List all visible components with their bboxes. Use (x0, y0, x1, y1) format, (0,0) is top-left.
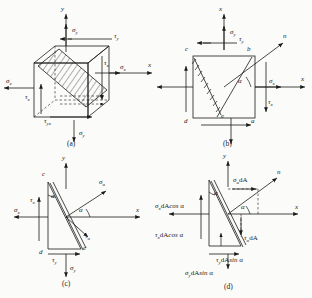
panel-a-axis-y-label: y (61, 6, 64, 13)
panel-b-corner-e: e (221, 113, 224, 120)
panel-d-drawing (155, 149, 312, 298)
panel-a-label-tau-x-right: τx (104, 60, 109, 68)
panel-b-corner-a: a (251, 118, 255, 125)
panel-d-force-tau-y-dA-sin-alpha: τydAsin α (216, 257, 243, 265)
panel-c-axis-y-label: y (62, 155, 65, 162)
panel-c-corner-c: c (42, 171, 45, 178)
panel-a-3d-stress-cube: y x σy τy σx σx τx τx τyx σy (a) (0, 0, 156, 149)
panel-b-axis-y-label: x (219, 6, 222, 13)
panel-c-axis-x-label: x (136, 207, 139, 214)
panel-d-caption: (d) (224, 282, 233, 291)
panel-b-corner-b: b (247, 46, 251, 53)
panel-b-2d-element: x x n σy τy σx τx c b d a e α (b) (155, 0, 312, 149)
panel-c-label-tau-x-left: τx (30, 197, 35, 205)
panel-a-drawing (0, 0, 156, 149)
panel-b-corner-d: d (184, 118, 188, 125)
panel-d-force-sigma-y-dA-sin-alpha: σydAsin α (185, 270, 213, 278)
panel-a-axis-x-label: x (148, 62, 151, 69)
panel-a-caption: (a) (67, 139, 75, 148)
panel-b-axis-x-label: x (301, 76, 304, 83)
panel-b-label-sigma-x-right: σx (269, 78, 275, 86)
panel-c-angle-alpha-right: α (79, 207, 83, 214)
panel-d-force-sigma-x-dA-cos-alpha: σxdAcos α (155, 203, 184, 211)
panel-d-axis-x-label: x (295, 204, 298, 211)
panel-c-caption: (c) (62, 279, 70, 288)
panel-b-corner-c: c (185, 46, 188, 53)
panel-c-wedge-element: y x c d e α α σx τx σα τα τy σy (c) (0, 149, 156, 298)
panel-d-angle-alpha-right: α (241, 204, 245, 211)
panel-b-axis-n-label: n (283, 33, 287, 40)
panel-d-force-components: y x n α α σxdAcos α τxdAcos α σαdA ταdA … (155, 149, 312, 298)
panel-d-force-tau-x-dA-cos-alpha: τxdAcos α (155, 232, 183, 240)
panel-a-label-sigma-y-bottom: σy (79, 130, 85, 138)
panel-d-force-tau-alpha-dA: ταdA (244, 235, 258, 243)
panel-c-label-tau-alpha: τα (85, 233, 90, 241)
panel-c-label-sigma-y-bottom: σy (70, 265, 76, 273)
panel-d-axis-n-label: n (277, 169, 281, 176)
panel-a-label-sigma-x-right: σx (120, 64, 126, 72)
panel-d-angle-alpha-top: α (214, 190, 218, 197)
panel-a-label-sigma-y-top: σy (72, 27, 78, 35)
panel-d-axis-y-label: y (223, 153, 226, 160)
panel-c-label-sigma-alpha: σα (99, 179, 105, 187)
panel-b-caption: (b) (223, 139, 232, 148)
panel-a-label-sigma-x-left: σx (6, 78, 12, 86)
panel-c-drawing (0, 149, 156, 298)
panel-b-label-tau-x-right: τx (268, 99, 273, 107)
panel-c-label-tau-y-bottom: τy (52, 257, 57, 265)
panel-c-label-sigma-x-left: σx (14, 207, 20, 215)
panel-b-label-tau-y-top: τy (239, 36, 244, 44)
panel-a-label-tau-yx-bottom: τyx (44, 118, 51, 126)
panel-b-angle-alpha: α (238, 78, 242, 85)
panel-c-corner-d: d (39, 249, 43, 256)
panel-c-angle-alpha-top: α (51, 193, 55, 200)
panel-a-label-tau-x-left: τx (25, 94, 30, 102)
panel-b-label-sigma-y-top: σy (230, 29, 236, 37)
panel-a-label-tau-y-top: τy (114, 33, 119, 41)
panel-c-corner-e: e (83, 245, 86, 252)
panel-b-drawing (155, 0, 312, 149)
panel-d-force-sigma-alpha-dA: σαdA (233, 177, 248, 185)
